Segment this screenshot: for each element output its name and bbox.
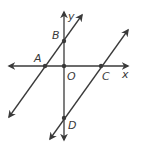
point-a (43, 64, 47, 68)
label-b: B (52, 29, 60, 42)
point-c (99, 64, 103, 68)
point-b (62, 39, 66, 43)
label-x-axis: x (121, 68, 129, 81)
point-o (62, 64, 66, 68)
label-c: C (102, 70, 110, 83)
label-o: O (67, 70, 76, 83)
point-d (62, 116, 66, 120)
label-a: A (33, 52, 42, 65)
label-d: D (68, 119, 76, 132)
line-cd (50, 30, 128, 139)
label-y-axis: y (67, 10, 75, 23)
coordinate-diagram: y x B A O C D (0, 0, 141, 148)
